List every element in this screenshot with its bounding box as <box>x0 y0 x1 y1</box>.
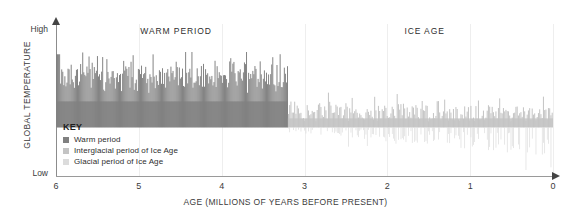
x-axis-line <box>56 176 553 177</box>
legend-item: Interglacial period of Ice Age <box>63 146 178 155</box>
legend-item: Glacial period of Ice Age <box>63 157 178 166</box>
x-axis-tick-label: 6 <box>43 181 69 191</box>
legend-swatch-icon <box>63 148 69 154</box>
x-axis-tick-label: 4 <box>209 181 235 191</box>
x-axis-tick-label: 1 <box>457 181 483 191</box>
legend-swatch-icon <box>63 137 69 143</box>
legend-item-label: Interglacial period of Ice Age <box>74 146 178 155</box>
y-axis-low-label: Low <box>14 168 48 178</box>
y-axis-title: GLOBAL TEMPERATURE <box>22 35 32 155</box>
y-axis-high-label: High <box>14 24 48 34</box>
legend-item-label: Glacial period of Ice Age <box>74 157 163 166</box>
legend-item-label: Warm period <box>74 135 121 144</box>
legend-title: KEY <box>63 122 178 132</box>
x-axis-tick-label: 2 <box>374 181 400 191</box>
chart-figure: GLOBAL TEMPERATURE High Low WARM PERIOD … <box>0 0 571 215</box>
x-axis-tick-label: 5 <box>126 181 152 191</box>
legend-item: Warm period <box>63 135 178 144</box>
band-label-ice-age: ICE AGE <box>404 26 444 36</box>
gridline <box>553 24 554 176</box>
legend: KEY Warm periodInterglacial period of Ic… <box>63 122 178 166</box>
x-axis-arrowhead-icon <box>552 172 560 180</box>
legend-items: Warm periodInterglacial period of Ice Ag… <box>63 135 178 166</box>
legend-swatch-icon <box>63 159 69 165</box>
x-axis-title: AGE (MILLIONS OF YEARS BEFORE PRESENT) <box>0 197 571 207</box>
x-axis-tick-label: 3 <box>292 181 318 191</box>
x-axis-tick-label: 0 <box>540 181 566 191</box>
band-label-warm-period: WARM PERIOD <box>140 26 211 36</box>
